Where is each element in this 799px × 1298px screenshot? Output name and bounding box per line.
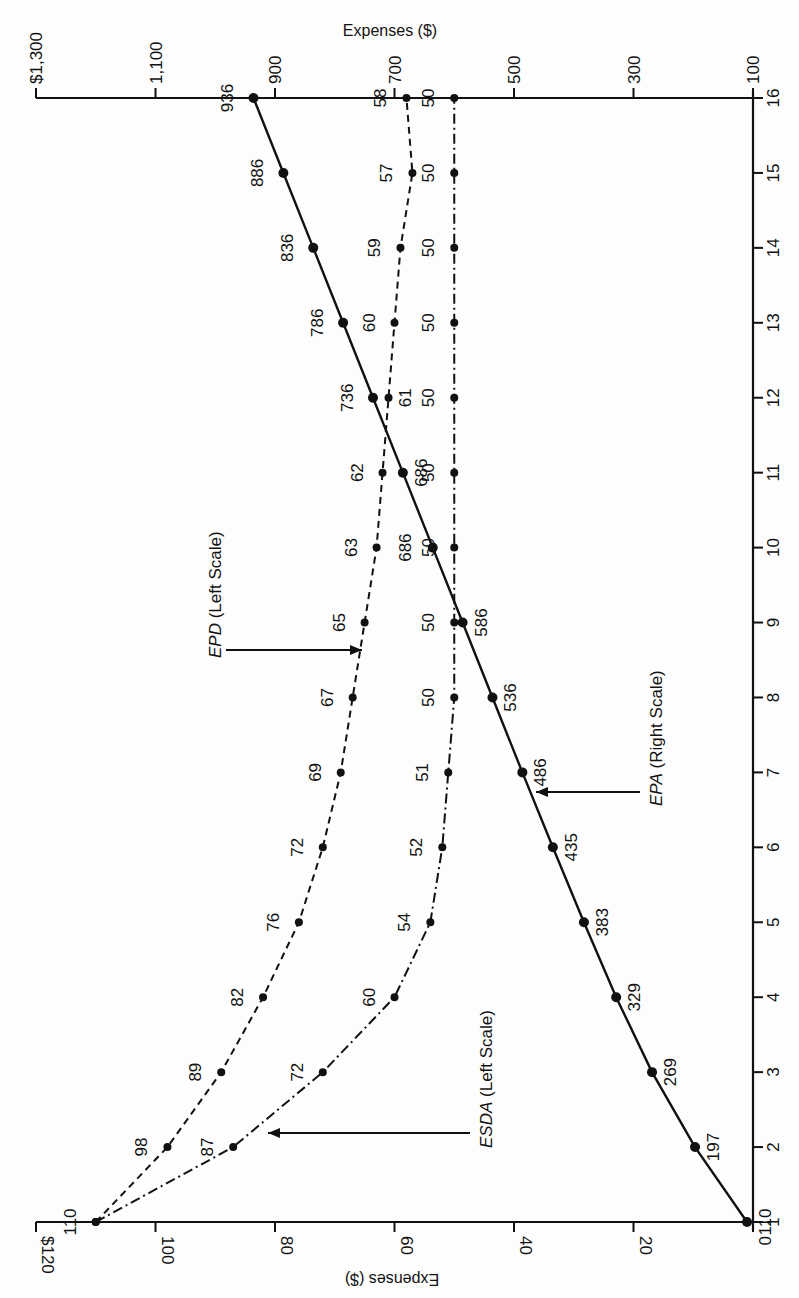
data-label-esda: 50 bbox=[419, 388, 438, 407]
data-point-marker bbox=[319, 843, 327, 851]
year-tick-label: 10 bbox=[764, 538, 783, 557]
data-label-esda: 50 bbox=[419, 688, 438, 707]
year-tick-label: 11 bbox=[764, 464, 783, 482]
data-label-esda: 50 bbox=[419, 238, 438, 257]
data-point-marker bbox=[259, 993, 267, 1001]
data-label-esda: 50 bbox=[419, 538, 438, 557]
data-label-esda: 87 bbox=[198, 1138, 217, 1157]
left-scale-axis-title: Expenses ($) bbox=[345, 1271, 439, 1288]
data-label-epa: 936 bbox=[218, 84, 237, 112]
data-point-marker bbox=[438, 843, 446, 851]
series-line-epd bbox=[96, 98, 413, 1222]
data-label-epd: 110 bbox=[61, 1208, 80, 1235]
data-point-marker bbox=[450, 619, 458, 627]
data-point-marker bbox=[338, 318, 348, 328]
data-point-marker bbox=[444, 768, 452, 776]
esda-annotation-arrowhead bbox=[268, 1128, 280, 1138]
data-point-marker bbox=[450, 693, 458, 701]
data-label-epd: 98 bbox=[132, 1138, 151, 1157]
epd-annotation-label: EPD (Left Scale) bbox=[206, 531, 225, 658]
data-label-epd: 63 bbox=[342, 538, 361, 557]
right-scale-tick-label: 500 bbox=[505, 56, 524, 84]
data-label-epa: 686 bbox=[412, 458, 431, 486]
data-point-marker bbox=[450, 394, 458, 402]
data-point-marker bbox=[408, 169, 416, 177]
year-tick-label: 3 bbox=[764, 1067, 783, 1076]
data-label-epa: 486 bbox=[531, 758, 550, 786]
data-label-epd: 82 bbox=[228, 988, 247, 1007]
data-point-marker bbox=[450, 544, 458, 552]
data-point-marker bbox=[391, 319, 399, 327]
data-label-epd: 67 bbox=[318, 688, 337, 707]
data-label-epa: 736 bbox=[338, 384, 357, 412]
data-point-marker bbox=[450, 169, 458, 177]
epa-annotation-arrowhead bbox=[536, 787, 548, 797]
data-label-epa: 886 bbox=[248, 159, 267, 187]
data-point-marker bbox=[450, 244, 458, 252]
right-scale-tick-label: $1,300 bbox=[27, 32, 46, 84]
data-label-epa: 586 bbox=[472, 608, 491, 636]
left-scale-tick-label: 40 bbox=[516, 1236, 535, 1255]
data-labels: 1109889827672696765636261605957588772605… bbox=[61, 84, 775, 1236]
esda-annotation-label-name: ESDA bbox=[477, 1102, 496, 1148]
data-point-marker bbox=[391, 993, 399, 1001]
series-epd bbox=[92, 94, 417, 1226]
data-label-epd: 69 bbox=[306, 763, 325, 782]
data-label-epd: 89 bbox=[186, 1063, 205, 1082]
axes: $120100806040200Expenses ($)$1,3001,1009… bbox=[27, 22, 783, 1288]
year-tick-label: 9 bbox=[764, 618, 783, 627]
data-point-marker bbox=[248, 93, 258, 103]
epa-annotation-label-name: EPA bbox=[647, 773, 666, 806]
left-scale-tick-label: 0 bbox=[755, 1236, 774, 1245]
data-point-marker bbox=[163, 1143, 171, 1151]
data-label-epd: 60 bbox=[360, 313, 379, 332]
data-label-esda: 54 bbox=[395, 913, 414, 932]
year-tick-label: 5 bbox=[764, 918, 783, 927]
right-scale-tick-label: 300 bbox=[625, 56, 644, 84]
right-scale-tick-label: 900 bbox=[266, 56, 285, 84]
data-point-marker bbox=[548, 842, 558, 852]
data-label-epd: 61 bbox=[396, 388, 415, 407]
series-line-esda bbox=[96, 98, 455, 1222]
data-label-esda: 72 bbox=[288, 1063, 307, 1082]
series-line-epa bbox=[253, 98, 747, 1222]
data-point-marker bbox=[385, 394, 393, 402]
data-point-marker bbox=[450, 469, 458, 477]
data-label-esda: 50 bbox=[419, 89, 438, 108]
year-tick-label: 15 bbox=[764, 163, 783, 182]
right-scale-tick-label: 1,100 bbox=[147, 41, 166, 84]
data-point-marker bbox=[229, 1143, 237, 1151]
data-point-marker bbox=[379, 469, 387, 477]
data-point-marker bbox=[458, 618, 468, 628]
year-tick-label: 8 bbox=[764, 693, 783, 702]
data-label-epd: 76 bbox=[264, 913, 283, 932]
data-point-marker bbox=[398, 468, 408, 478]
left-scale-tick-label: 100 bbox=[158, 1236, 177, 1264]
series-layer bbox=[92, 93, 752, 1227]
data-label-epd: 65 bbox=[330, 613, 349, 632]
data-label-esda: 60 bbox=[360, 988, 379, 1007]
data-label-esda: 50 bbox=[419, 313, 438, 332]
data-point-marker bbox=[611, 992, 621, 1002]
data-point-marker bbox=[579, 917, 589, 927]
data-point-marker bbox=[402, 94, 410, 102]
year-tick-label: 6 bbox=[764, 843, 783, 852]
series-epa bbox=[248, 93, 752, 1227]
right-scale-tick-label: 700 bbox=[386, 56, 405, 84]
data-label-epa: 197 bbox=[704, 1133, 723, 1161]
year-tick-label: 12 bbox=[764, 388, 783, 407]
data-label-esda: 51 bbox=[413, 763, 432, 782]
data-point-marker bbox=[426, 918, 434, 926]
data-label-esda: 50 bbox=[419, 163, 438, 182]
left-scale-tick-label: 20 bbox=[636, 1236, 655, 1255]
series-esda bbox=[92, 94, 459, 1226]
esda-annotation-label-scale-note: (Left Scale) bbox=[477, 1010, 496, 1102]
chart: $120100806040200Expenses ($)$1,3001,1009… bbox=[0, 0, 799, 1298]
right-scale-tick-label: 100 bbox=[744, 56, 763, 84]
data-label-epd: 57 bbox=[377, 163, 396, 182]
year-tick-label: 7 bbox=[764, 768, 783, 777]
left-scale-tick-label: $120 bbox=[38, 1236, 57, 1274]
year-tick-label: 13 bbox=[764, 313, 783, 332]
data-label-esda: 50 bbox=[419, 613, 438, 632]
data-label-epa: 269 bbox=[661, 1058, 680, 1086]
